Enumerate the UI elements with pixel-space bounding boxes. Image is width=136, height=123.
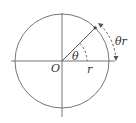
unit-circle-diagram: O θ r θr: [0, 0, 136, 123]
arrowhead-top-icon: [98, 23, 104, 28]
origin-label: O: [51, 62, 60, 75]
angle-label: θ: [72, 50, 79, 63]
arc-length-label: θr: [115, 35, 128, 48]
radius-label: r: [87, 63, 93, 76]
angle-arc: [80, 43, 87, 61]
arrowhead-bottom-icon: [114, 56, 119, 61]
point-on-circle: [94, 26, 97, 29]
